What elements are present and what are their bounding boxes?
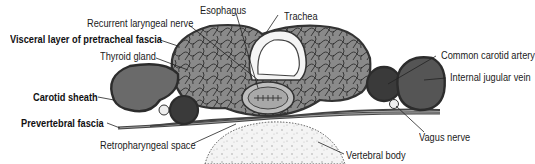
label-visceral-layer-pretracheal-fascia: Visceral layer of pretracheal fascia	[10, 33, 162, 45]
label-thyroid-gland: Thyroid gland	[100, 50, 156, 62]
label-vertebral-body: Vertebral body	[346, 149, 406, 161]
label-common-carotid-artery: Common carotid artery	[441, 49, 535, 61]
esophagus	[242, 82, 294, 114]
label-esophagus: Esophagus	[200, 4, 246, 16]
label-vagus-nerve: Vagus nerve	[419, 131, 470, 143]
label-prevertebral-fascia: Prevertebral fascia	[21, 117, 104, 129]
right-carotid-sheath	[367, 57, 445, 110]
label-recurrent-laryngeal-nerve: Recurrent laryngeal nerve	[87, 17, 193, 29]
label-internal-jugular-vein: Internal jugular vein	[450, 71, 531, 83]
label-trachea: Trachea	[284, 10, 318, 22]
label-retropharyngeal-space: Retropharyngeal space	[100, 139, 196, 151]
trachea	[249, 31, 306, 80]
label-carotid-sheath: Carotid sheath	[33, 91, 98, 103]
